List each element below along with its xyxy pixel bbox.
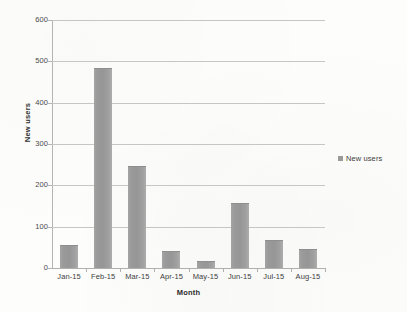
bar-apr-15: [162, 251, 180, 268]
y-axis-tick-label: 500: [16, 56, 48, 65]
bar-jan-15: [60, 245, 78, 268]
legend-swatch-new-users: [338, 156, 343, 161]
y-axis-tick-label: 200: [16, 180, 48, 189]
legend-label-new-users: New users: [346, 154, 382, 163]
chart-legend: New users: [338, 154, 382, 163]
y-axis-tick-label: 0: [16, 263, 48, 272]
bar-jul-15: [265, 240, 283, 268]
bar-slot: [120, 20, 154, 268]
y-axis-tick-labels: 0100200300400500600: [10, 20, 48, 269]
bar-slot: [189, 20, 223, 268]
bar-slot: [223, 20, 257, 268]
x-axis-tick-label: Aug-15: [288, 272, 328, 281]
bar-feb-15: [94, 68, 112, 268]
bar-slot: [86, 20, 120, 268]
bar-slot: [257, 20, 291, 268]
plot-area: [52, 20, 325, 268]
bar-jun-15: [231, 203, 249, 268]
y-axis-tick-label: 600: [16, 15, 48, 24]
bar-mar-15: [128, 166, 146, 269]
bar-slot: [52, 20, 86, 268]
x-axis-tick-labels: Jan-15Feb-15Mar-15Apr-15May-15Jun-15Jul-…: [52, 272, 325, 286]
y-axis-tick-label: 400: [16, 98, 48, 107]
bar-slot: [291, 20, 325, 268]
bars-layer: [52, 20, 325, 268]
bar-aug-15: [299, 249, 317, 268]
bar-slot: [154, 20, 188, 268]
y-axis-tick-label: 100: [16, 222, 48, 231]
x-axis-title: Month: [52, 288, 325, 297]
bar-may-15: [197, 261, 215, 268]
bar-chart-figure: New users 0100200300400500600 Jan-15Feb-…: [0, 0, 407, 312]
y-axis-tick-label: 300: [16, 139, 48, 148]
